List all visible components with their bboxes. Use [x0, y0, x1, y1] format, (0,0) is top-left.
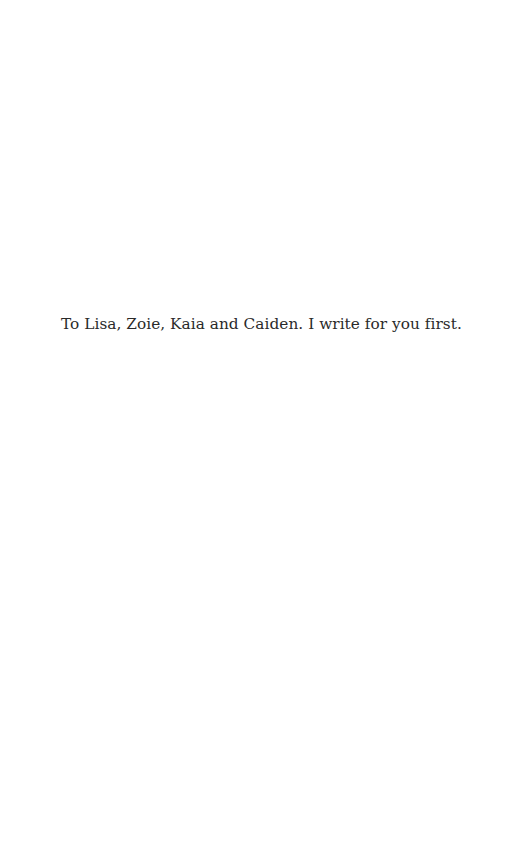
document-page: To Lisa, Zoie, Kaia and Caiden. I write …: [0, 0, 530, 863]
dedication-text: To Lisa, Zoie, Kaia and Caiden. I write …: [61, 314, 462, 334]
